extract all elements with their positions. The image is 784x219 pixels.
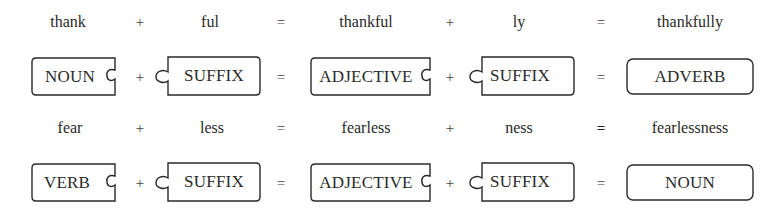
equals-sign: = <box>277 67 285 87</box>
word-final: thankfully <box>657 12 723 32</box>
puzzle-piece-adjective: ADJECTIVE <box>310 57 436 96</box>
plus-sign: + <box>136 67 144 87</box>
word-suffix: less <box>200 118 224 138</box>
plus-sign: + <box>136 12 144 32</box>
puzzle-piece-adverb: ADVERB <box>626 58 754 95</box>
word-suffix: ful <box>201 12 219 32</box>
plus-sign: + <box>446 118 454 138</box>
plus-sign: + <box>136 118 144 138</box>
equals-sign: = <box>277 12 285 32</box>
equals-sign: = <box>277 118 285 138</box>
word-result: fearless <box>342 118 391 138</box>
equals-sign: = <box>597 118 606 138</box>
puzzle-piece-suffix: SUFFIX <box>468 56 576 96</box>
puzzle-piece-noun: NOUN <box>31 57 121 96</box>
puzzle-piece-adjective: ADJECTIVE <box>310 163 436 202</box>
word-final: fearlessness <box>652 118 728 138</box>
word-base: thank <box>50 12 86 32</box>
puzzle-piece-suffix: SUFFIX <box>154 162 262 202</box>
plus-sign: + <box>136 173 144 193</box>
puzzle-piece-suffix: SUFFIX <box>468 162 576 202</box>
word-result: thankful <box>339 12 392 32</box>
equals-sign: = <box>597 67 605 87</box>
puzzle-piece-verb: VERB <box>31 163 121 202</box>
plus-sign: + <box>446 12 454 32</box>
word-suffix: ly <box>513 12 525 32</box>
word-suffix: ness <box>505 118 533 138</box>
equals-sign: = <box>597 173 605 193</box>
puzzle-piece-suffix: SUFFIX <box>154 56 262 96</box>
word-base: fear <box>58 118 83 138</box>
equals-sign: = <box>597 12 605 32</box>
equals-sign: = <box>277 173 285 193</box>
plus-sign: + <box>446 173 454 193</box>
plus-sign: + <box>446 67 454 87</box>
puzzle-piece-noun-result: NOUN <box>626 164 754 201</box>
